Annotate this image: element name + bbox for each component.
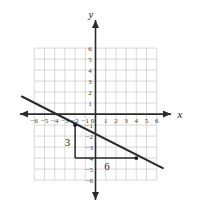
rise-label: 3 [65,136,71,148]
axes [20,20,171,200]
y-tick-3: 3 [88,78,92,86]
x-axis-arrow-left [20,111,28,118]
x-axis-label: x [177,108,183,120]
run-label: 6 [104,160,110,172]
x-tick--5: −5 [41,117,49,125]
y-axis-arrow-down [92,192,99,200]
y-tick--2: −2 [86,133,94,141]
x-tick-5: 5 [145,117,149,125]
y-axis-label: y [88,8,94,20]
x-tick--6: −6 [31,117,39,125]
coordinate-plane-svg: −6 −5 −4 −3 −2 −1 0 1 2 3 4 5 6 6 5 4 3 … [0,0,198,211]
y-tick--3: −3 [86,144,94,152]
y-tick-4: 4 [88,67,92,75]
y-tick-1: 1 [88,100,92,108]
y-tick--6: −6 [86,177,94,185]
x-tick-6: 6 [155,117,159,125]
y-tick--5: −5 [86,166,94,174]
x-tick-2: 2 [114,117,118,125]
y-tick-6: 6 [88,45,92,53]
y-tick-5: 5 [88,56,92,64]
x-axis-arrow-right [163,111,171,118]
x-tick-4: 4 [135,117,139,125]
x-tick-3: 3 [124,117,128,125]
y-tick-2: 2 [88,89,92,97]
y-axis-arrow-up [92,20,99,28]
point-4--4 [134,156,138,160]
x-tick-1: 1 [104,117,108,125]
x-tick--4: −4 [51,117,59,125]
graph-figure: −6 −5 −4 −3 −2 −1 0 1 2 3 4 5 6 6 5 4 3 … [0,0,198,211]
point--2--1 [73,123,77,127]
